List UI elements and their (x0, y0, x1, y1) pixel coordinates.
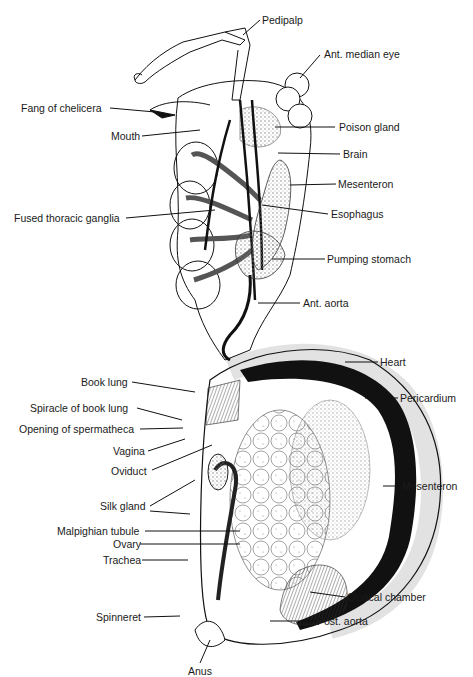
label-brain: Brain (343, 148, 368, 160)
pedipalp-drawing (134, 28, 250, 100)
label-ant-aorta: Ant. aorta (303, 297, 349, 309)
label-fang-of-chelicera: Fang of chelicera (21, 102, 102, 114)
label-spiracle-of-book-lung: Spiracle of book lung (30, 402, 128, 414)
label-malpighian-tubule: Malpighian tubule (57, 525, 139, 537)
label-oviduct: Oviduct (111, 465, 147, 477)
label-mesenteron-lower: Mesenteron (402, 480, 457, 492)
label-anus: Anus (188, 665, 212, 677)
label-book-lung: Book lung (81, 376, 128, 388)
esophagus-aorta-drawing (223, 275, 250, 360)
label-pumping-stomach: Pumping stomach (327, 253, 411, 265)
label-spinneret: Spinneret (96, 611, 141, 623)
label-heart: Heart (380, 356, 406, 368)
label-pericardium: Pericardium (400, 392, 456, 404)
label-vagina: Vagina (113, 445, 145, 457)
eyes-drawing (276, 73, 312, 128)
poison-gland-drawing (240, 107, 281, 147)
label-post-aorta: Post. aorta (317, 615, 368, 627)
label-ovary: Ovary (113, 538, 141, 550)
label-mesenteron-upper: Mesenteron (338, 178, 393, 190)
label-ant-median-eye: Ant. median eye (324, 48, 400, 60)
label-opening-of-spermatheca: Opening of spermatheca (19, 423, 134, 435)
label-poison-gland: Poison gland (339, 121, 400, 133)
label-trachea: Trachea (103, 554, 141, 566)
anatomy-diagram: Pedipalp Ant. median eye Fang of chelice… (0, 0, 473, 677)
label-pedipalp: Pedipalp (262, 14, 303, 26)
label-cloacal-chamber: Cloacal chamber (347, 591, 426, 603)
label-fused-thoracic-ganglia: Fused thoracic ganglia (14, 212, 120, 224)
label-silk-gland: Silk gland (100, 500, 146, 512)
label-esophagus: Esophagus (331, 208, 384, 220)
label-mouth: Mouth (111, 130, 140, 142)
